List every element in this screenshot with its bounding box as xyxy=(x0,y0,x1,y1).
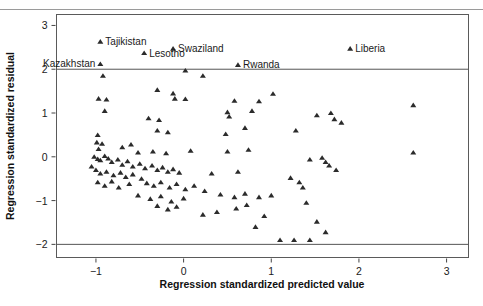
data-point-marker xyxy=(137,161,143,166)
data-point-marker xyxy=(154,87,160,92)
data-point-marker xyxy=(130,172,136,177)
data-point-marker xyxy=(102,153,108,158)
data-point-marker xyxy=(188,148,194,153)
data-point-marker xyxy=(249,108,255,113)
data-point-marker xyxy=(233,206,239,211)
reference-lines xyxy=(57,69,469,244)
data-point-marker xyxy=(244,202,250,207)
data-point-marker xyxy=(307,237,313,242)
data-point-marker xyxy=(277,237,283,242)
data-point-marker xyxy=(231,98,237,103)
data-point-marker xyxy=(100,73,106,78)
data-point-marker xyxy=(144,181,150,186)
data-point-marker xyxy=(293,128,299,133)
data-point-marker xyxy=(223,131,229,136)
data-point-marker xyxy=(261,213,267,218)
data-point-marker xyxy=(116,185,122,190)
scatter-plot-figure: −10123 −2−10123 TajikistanKazakhstanLeso… xyxy=(0,0,483,306)
data-point-marker xyxy=(158,180,164,185)
data-point-marker xyxy=(209,171,215,176)
data-point-marker xyxy=(170,167,176,172)
data-point-marker xyxy=(174,204,180,209)
y-tick-label: 1 xyxy=(42,107,48,119)
data-point-marker xyxy=(242,191,248,196)
point-label-liberia: Liberia xyxy=(355,43,385,54)
data-point-marker xyxy=(303,200,309,205)
point-label-swaziland: Swaziland xyxy=(178,43,224,54)
data-point-marker xyxy=(256,195,262,200)
plot-frame xyxy=(57,15,469,258)
data-point-marker xyxy=(314,219,320,224)
data-point-marker xyxy=(224,110,230,115)
data-point-marker xyxy=(97,39,103,44)
data-point-marker xyxy=(91,154,97,159)
data-point-marker xyxy=(154,167,160,172)
data-point-marker xyxy=(89,164,95,169)
data-point-marker xyxy=(128,142,134,147)
data-point-marker xyxy=(158,194,164,199)
data-point-marker xyxy=(139,176,145,181)
data-point-marker xyxy=(170,91,176,96)
data-point-marker xyxy=(410,150,416,155)
data-point-marker xyxy=(167,185,173,190)
data-point-marker xyxy=(165,130,171,135)
data-point-marker xyxy=(347,46,353,51)
data-point-marker xyxy=(117,170,123,175)
data-point-marker xyxy=(99,141,105,146)
plot-canvas: −10123 −2−10123 TajikistanKazakhstanLeso… xyxy=(0,0,483,306)
data-point-marker xyxy=(314,113,320,118)
data-point-marker xyxy=(147,196,153,201)
data-point-marker xyxy=(300,185,306,190)
data-point-marker xyxy=(270,91,276,96)
data-point-marker xyxy=(182,187,188,192)
data-point-marker xyxy=(130,164,136,169)
data-point-marker xyxy=(146,116,152,121)
data-point-marker xyxy=(102,183,108,188)
data-point-marker xyxy=(154,203,160,208)
x-axis-title: Regression standardized predicted value xyxy=(160,278,365,290)
data-point-marker xyxy=(141,50,147,55)
y-tick-label: −2 xyxy=(36,238,48,250)
data-point-marker xyxy=(119,162,125,167)
data-point-marker xyxy=(95,132,101,137)
data-point-marker xyxy=(135,193,141,198)
data-point-marker xyxy=(200,73,206,78)
data-point-marker xyxy=(94,140,100,145)
data-point-marker xyxy=(242,125,248,130)
point-label-tajikistan: Tajikistan xyxy=(105,36,146,47)
data-point-marker xyxy=(142,166,148,171)
data-point-marker xyxy=(125,159,131,164)
data-point-marker xyxy=(235,62,241,67)
data-point-marker xyxy=(135,150,141,155)
data-point-marker xyxy=(291,237,297,242)
data-point-marker xyxy=(191,183,197,188)
data-point-marker xyxy=(149,163,155,168)
data-point-marker xyxy=(214,209,220,214)
data-point-marker xyxy=(224,149,230,154)
x-tick-label: 3 xyxy=(444,265,450,277)
x-tick-label: 2 xyxy=(356,265,362,277)
data-point-marker xyxy=(115,157,121,162)
data-point-marker xyxy=(235,169,241,174)
data-point-marker xyxy=(95,180,101,185)
data-point-marker xyxy=(96,96,102,101)
y-axis-title: Regression standardized residual xyxy=(4,52,16,220)
data-point-marker xyxy=(172,96,178,101)
data-point-marker xyxy=(328,110,334,115)
data-point-marker xyxy=(163,151,169,156)
data-point-marker xyxy=(268,193,274,198)
data-point-marker xyxy=(126,181,132,186)
data-point-marker xyxy=(217,192,223,197)
data-point-marker xyxy=(97,61,103,66)
x-tick-label: 1 xyxy=(268,265,274,277)
data-point-marker xyxy=(319,155,325,160)
data-point-marker xyxy=(103,169,109,174)
data-point-marker xyxy=(160,165,166,170)
data-point-marker xyxy=(165,169,171,174)
x-axis-ticks: −10123 xyxy=(90,259,450,277)
data-point-marker xyxy=(323,160,329,165)
point-label-rwanda: Rwanda xyxy=(243,59,280,70)
data-point-marker xyxy=(103,97,109,102)
data-point-marker xyxy=(151,183,157,188)
data-point-marker xyxy=(182,96,188,101)
